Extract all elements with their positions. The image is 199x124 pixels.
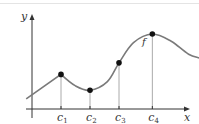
tick-label-c3: c3 (115, 111, 126, 124)
function-label: f (141, 36, 148, 47)
critical-point-c4 (150, 31, 156, 37)
y-axis-label: y (20, 10, 28, 23)
critical-point-c1 (58, 72, 64, 78)
critical-points (58, 31, 199, 93)
critical-point-c3 (116, 60, 122, 66)
tick-label-c2: c2 (86, 111, 97, 124)
x-tick-labels: c1c2c3c4c5 (57, 111, 199, 124)
y-axis-arrow-icon (30, 14, 35, 20)
x-axis-label: x (184, 111, 191, 124)
tick-label-c1: c1 (57, 111, 68, 124)
critical-point-c2 (87, 87, 93, 93)
function-graph: c1c2c3c4c5 x y f (0, 0, 199, 124)
tick-label-c4: c4 (148, 111, 159, 124)
function-curve (26, 34, 199, 99)
